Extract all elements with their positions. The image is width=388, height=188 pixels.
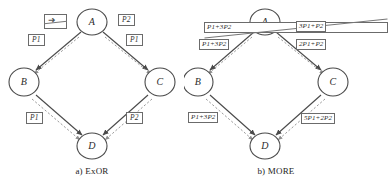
node-label-b: B (188, 77, 208, 87)
diagonal-arrow-icon: ➜ (48, 16, 56, 25)
node-label-d: D (82, 141, 102, 151)
node-label-b: B (14, 77, 34, 87)
cost-label-ab-lower: P1 (28, 34, 45, 46)
cost-label-cd: P2 (126, 112, 143, 124)
cost-label-ac-upper: 3P1+P2 (296, 21, 326, 32)
cost-label-ab-upper: ➜ (44, 14, 67, 29)
caption-exor: a) ExOR (0, 166, 184, 176)
cost-label-bd: P1+3P2 (188, 112, 218, 123)
edge-a-to-b (210, 32, 254, 70)
exor-graph-canvas (0, 0, 184, 188)
cost-label-ac-lower: P1 (126, 34, 143, 46)
edge-a-to-c (276, 32, 321, 70)
node-label-d: D (255, 141, 275, 151)
cost-label-ac-lower: 2P1+P2 (296, 39, 326, 50)
edge-b-to-d (36, 95, 82, 135)
cost-label-ab-lower: P1+3P2 (199, 39, 229, 50)
node-label-c: C (323, 77, 343, 87)
caption-more: b) MORE (184, 166, 368, 176)
node-label-a: A (82, 17, 102, 27)
panel-exor: A B C D ➜ P1 P2 P1 P1 P2 a) ExOR (0, 0, 184, 188)
panel-more: A B C D P1+3P2 P1+3P2 3P1+P2 2P1+P2 P1+3… (184, 0, 368, 188)
cost-label-ac-upper: P2 (118, 14, 135, 26)
node-label-c: C (150, 77, 170, 87)
cost-label-cd: 5P1+2P2 (301, 113, 335, 124)
cost-label-bd: P1 (26, 112, 43, 124)
